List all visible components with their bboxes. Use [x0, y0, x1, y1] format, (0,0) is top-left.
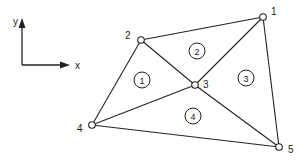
y-axis-label: y — [13, 16, 18, 27]
node-1: 1 — [260, 6, 277, 20]
element-2: 2 — [189, 43, 205, 59]
element-number: 3 — [243, 74, 248, 84]
edge-2-3 — [141, 40, 195, 85]
node-number: 5 — [288, 144, 294, 155]
mesh-nodes: 12345 — [77, 6, 294, 155]
node-number: 4 — [77, 123, 83, 134]
edge-5-1 — [263, 17, 279, 147]
element-number: 2 — [194, 47, 199, 57]
node-2: 2 — [125, 30, 144, 43]
element-3: 3 — [238, 70, 254, 86]
node-number: 3 — [203, 79, 209, 90]
x-axis-arrow-icon — [60, 62, 70, 69]
element-number: 4 — [190, 112, 195, 122]
edge-3-5 — [195, 85, 279, 147]
node-circle-icon — [276, 144, 283, 151]
element-1: 1 — [134, 72, 150, 88]
node-5: 5 — [276, 144, 294, 155]
node-circle-icon — [260, 14, 267, 21]
node-circle-icon — [89, 122, 96, 129]
coordinate-axes: xy — [13, 16, 80, 71]
x-axis-label: x — [75, 60, 80, 71]
y-axis-arrow-icon — [19, 18, 26, 28]
node-circle-icon — [192, 82, 199, 89]
edge-3-4 — [92, 85, 195, 125]
element-4: 4 — [185, 108, 201, 124]
edge-1-2 — [141, 17, 263, 40]
element-number: 1 — [139, 76, 144, 86]
node-number: 1 — [271, 6, 277, 17]
edge-2-4 — [92, 40, 141, 125]
node-circle-icon — [138, 37, 145, 44]
finite-element-mesh-diagram: xy 1234 12345 — [0, 0, 305, 162]
node-number: 2 — [125, 30, 131, 41]
mesh-edges — [92, 17, 279, 147]
node-4: 4 — [77, 122, 95, 134]
edge-4-5 — [92, 125, 279, 147]
